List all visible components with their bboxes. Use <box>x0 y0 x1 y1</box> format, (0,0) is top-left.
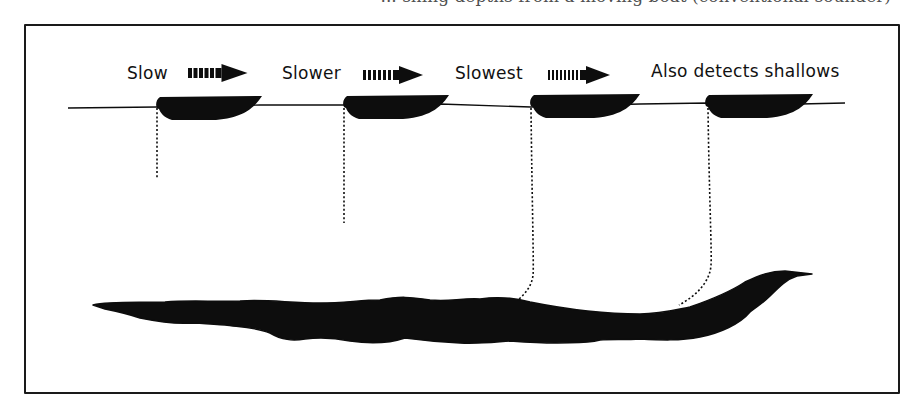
arrow-slowest-icon <box>548 66 610 84</box>
boat-1 <box>156 96 262 120</box>
boats <box>156 94 813 120</box>
arrow-slow-icon <box>188 64 248 82</box>
label-slower: Slower <box>282 63 341 83</box>
label-slow: Slow <box>127 63 168 83</box>
seabed-shape <box>93 271 812 343</box>
label-slowest: Slowest <box>455 63 523 83</box>
label-also-detects-shallows: Also detects shallows <box>651 61 840 81</box>
boat-4 <box>705 94 813 118</box>
arrow-slower-icon <box>363 66 423 84</box>
speed-arrows <box>188 64 610 84</box>
sounding-line-3 <box>519 108 533 299</box>
boat-2 <box>343 95 449 119</box>
sounding-line-4 <box>679 108 711 305</box>
sounding-lines <box>157 108 711 305</box>
boat-3 <box>530 94 640 118</box>
seabed-silhouette <box>93 271 812 343</box>
